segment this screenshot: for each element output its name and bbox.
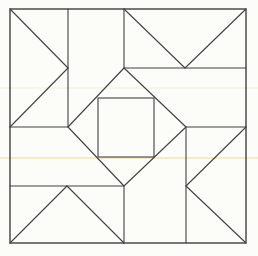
scan-artifact-1 <box>0 87 258 89</box>
screenshot-page <box>0 0 258 256</box>
quilt-block-figure <box>0 0 258 256</box>
